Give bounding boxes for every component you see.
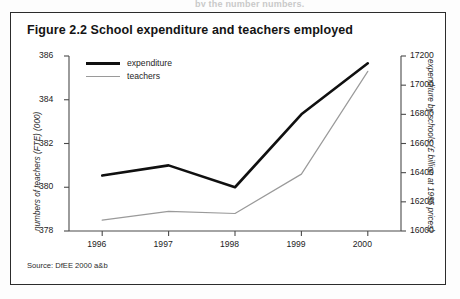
legend-label-expenditure: expenditure (127, 59, 172, 68)
legend-item-teachers: teachers (86, 70, 172, 83)
right-axis-ticks (401, 56, 406, 231)
x-axis-ticks (102, 231, 368, 236)
page-bleed-text: by the number numbers. (195, 0, 445, 7)
legend-item-expenditure: expenditure (86, 57, 172, 70)
right-axis-title: expenditure by schools (£ billion at 199… (426, 59, 435, 232)
left-axis-title: numbers of teachers (FTE) (000) (33, 112, 42, 231)
x-tick-label: 1996 (87, 239, 106, 249)
figure-source: Source: DfEE 2000 a&b (27, 261, 108, 270)
left-tick-label: 384 (39, 94, 53, 104)
legend-label-teachers: teachers (127, 72, 160, 81)
left-tick-label: 386 (39, 50, 53, 60)
plot-area: 378380382384386 160001620016400166001680… (11, 13, 447, 286)
x-tick-label: 2000 (353, 239, 372, 249)
page-canvas: by the number numbers. Figure 2.2 School… (0, 0, 460, 299)
x-tick-label: 1999 (286, 239, 305, 249)
series-layer (102, 63, 368, 220)
chart-legend: expenditure teachers (86, 57, 172, 83)
x-tick-label: 1997 (154, 239, 173, 249)
legend-line-icon-teachers (86, 76, 120, 77)
figure-box: Figure 2.2 School expenditure and teache… (10, 12, 446, 285)
left-axis-ticks (64, 56, 69, 231)
x-tick-label: 1998 (220, 239, 239, 249)
legend-line-icon-expenditure (86, 62, 120, 65)
